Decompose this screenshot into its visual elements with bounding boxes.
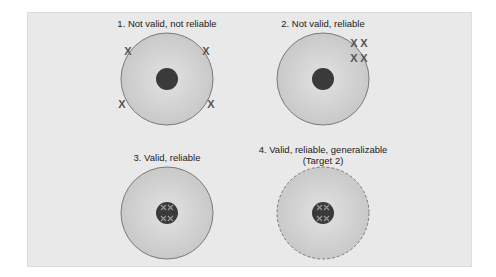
target-panel-4: 4. Valid, reliable, generalizable (Targe…: [259, 144, 388, 259]
panel-4-title-line2: (Target 2): [303, 155, 344, 166]
x-mark: X: [350, 37, 358, 49]
x-mark: X: [360, 37, 368, 49]
x-mark: X: [360, 52, 368, 64]
panel-3-title: 3. Valid, reliable: [134, 152, 201, 163]
x-mark: X: [118, 98, 126, 110]
target-panel-3: 3. Valid, reliable: [121, 152, 213, 259]
x-mark: X: [350, 52, 358, 64]
x-mark: X: [202, 45, 210, 57]
target-panel-2: 2. Not valid, reliable X X X X: [277, 18, 369, 125]
bullseye: [156, 68, 178, 90]
bullseye: [156, 202, 178, 224]
bullseye-diagram: 1. Not valid, not reliable X X X X 2. No…: [0, 0, 496, 277]
x-mark: X: [207, 98, 215, 110]
panel-4-title-line1: 4. Valid, reliable, generalizable: [259, 144, 388, 155]
panel-1-title: 1. Not valid, not reliable: [117, 18, 216, 29]
bullseye: [312, 68, 334, 90]
target-panel-1: 1. Not valid, not reliable X X X X: [117, 18, 216, 125]
bullseye: [312, 202, 334, 224]
panel-2-title: 2. Not valid, reliable: [281, 18, 364, 29]
x-mark: X: [124, 45, 132, 57]
